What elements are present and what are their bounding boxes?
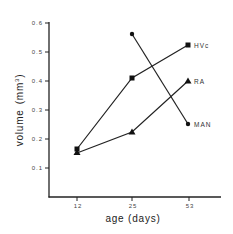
series-label-hvc: HVc bbox=[194, 42, 209, 49]
series-label-ra: RA bbox=[194, 78, 205, 85]
svg-text:53: 53 bbox=[186, 203, 195, 209]
svg-text:0.2: 0.2 bbox=[32, 136, 43, 142]
series-ra: RA bbox=[74, 78, 206, 156]
svg-text:0.6: 0.6 bbox=[32, 20, 43, 26]
series-label-man: MAN bbox=[194, 121, 211, 128]
x-axis-label: age (days) bbox=[105, 213, 160, 224]
x-tick-labels: 12 25 53 bbox=[74, 203, 195, 209]
svg-text:25: 25 bbox=[129, 203, 138, 209]
y-axis-label: volume(mm3) bbox=[14, 74, 25, 147]
chart-figure: 0.1 0.2 0.3 0.4 0.5 0.6 12 25 53 age (da… bbox=[0, 0, 233, 234]
svg-text:0.5: 0.5 bbox=[32, 49, 43, 55]
y-tick-labels: 0.1 0.2 0.3 0.4 0.5 0.6 bbox=[32, 20, 43, 171]
svg-text:0.1: 0.1 bbox=[32, 165, 43, 171]
svg-text:12: 12 bbox=[74, 203, 83, 209]
svg-text:0.3: 0.3 bbox=[32, 107, 43, 113]
series-hvc: HVc bbox=[75, 42, 210, 152]
svg-text:0.4: 0.4 bbox=[32, 78, 43, 84]
